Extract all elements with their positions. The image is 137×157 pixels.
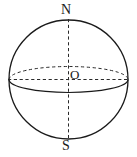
sphere-figure: N O S [0, 0, 137, 157]
center-point-label: O [70, 68, 79, 81]
north-pole-label: N [61, 3, 71, 17]
south-pole-label: S [62, 139, 70, 153]
sphere-drawing-canvas [0, 0, 137, 157]
